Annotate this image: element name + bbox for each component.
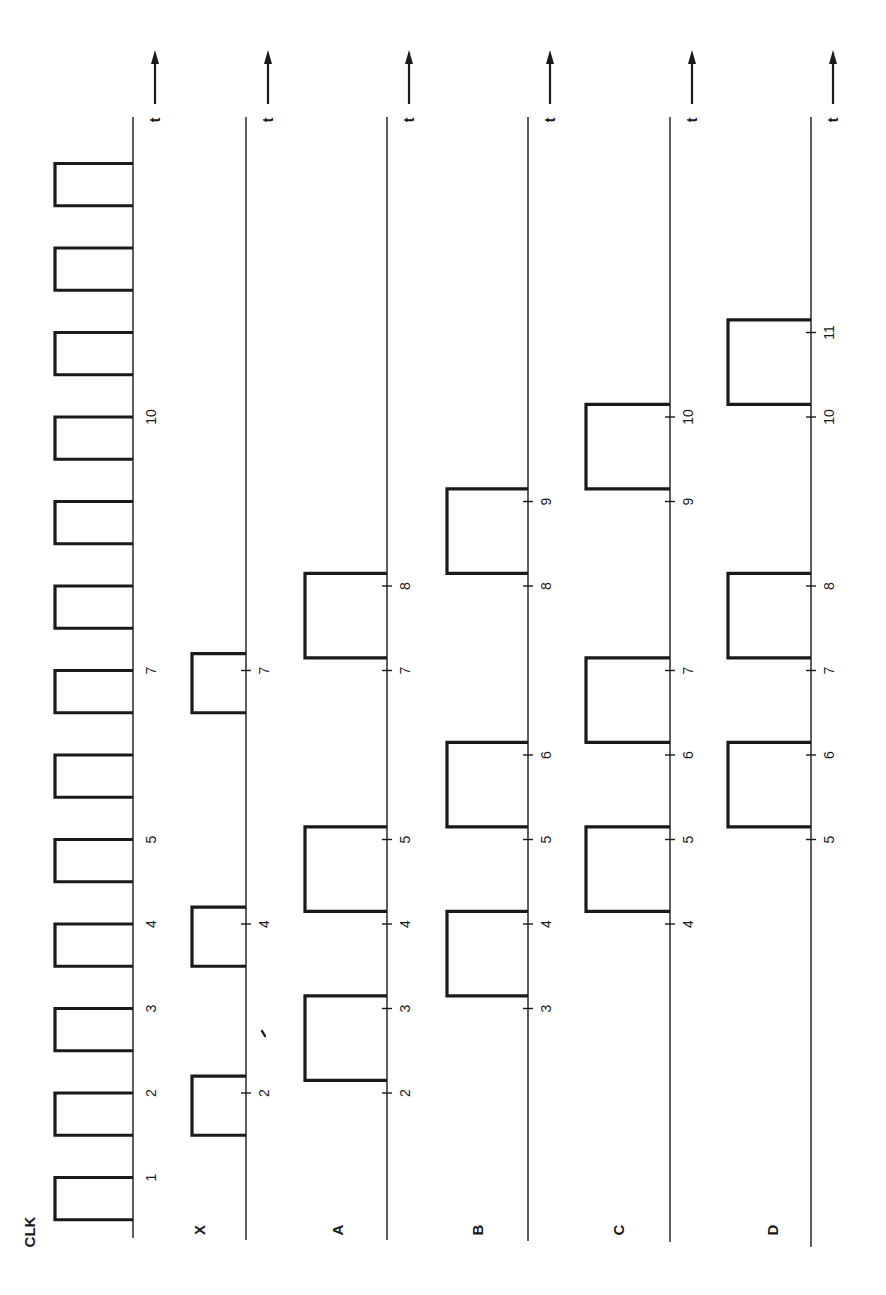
time-label: 7 xyxy=(397,666,413,674)
signal-pulse xyxy=(55,1093,133,1135)
signal-pulse xyxy=(55,164,133,206)
signal-pulse xyxy=(55,333,133,375)
signal-pulse xyxy=(447,489,528,574)
time-label: 3 xyxy=(143,1004,159,1012)
signal-pulse xyxy=(586,404,670,489)
arrow-up-icon xyxy=(264,50,272,64)
signal-pulse xyxy=(55,417,133,459)
time-axis-label: t xyxy=(401,117,417,122)
signal-pulse xyxy=(55,248,133,290)
signal-name-c: C xyxy=(610,1224,627,1235)
time-axis-label: t xyxy=(825,117,841,122)
signal-name-x: X xyxy=(191,1225,208,1235)
time-label: 2 xyxy=(143,1089,159,1097)
signal-pulse xyxy=(55,924,133,966)
signal-lane-a: 234578At xyxy=(305,50,417,1240)
signal-lanes: 12345710CLKt247Xt234578At345689Bt4567910… xyxy=(21,50,841,1247)
time-axis-label: t xyxy=(542,117,558,122)
arrow-up-icon xyxy=(829,50,837,64)
time-axis-label: t xyxy=(684,117,700,122)
time-label: 10 xyxy=(143,409,159,425)
signal-pulse xyxy=(447,911,528,996)
arrow-up-icon xyxy=(688,50,696,64)
signal-pulse xyxy=(192,1076,246,1135)
time-label: 10 xyxy=(680,409,696,425)
time-label: 4 xyxy=(397,920,413,928)
time-label: 5 xyxy=(397,835,413,843)
time-label: 2 xyxy=(397,1089,413,1097)
signal-pulse xyxy=(192,654,246,713)
signal-pulse xyxy=(305,827,387,912)
signal-pulse xyxy=(305,996,387,1080)
signal-name-a: A xyxy=(329,1224,346,1235)
time-label: 7 xyxy=(821,666,837,674)
time-label: 10 xyxy=(821,409,837,425)
signal-pulse xyxy=(586,658,670,743)
timing-diagram: 12345710CLKt247Xt234578At345689Bt4567910… xyxy=(0,0,886,1295)
signal-name-d: D xyxy=(764,1224,781,1235)
arrow-up-icon xyxy=(151,50,159,64)
time-label: 7 xyxy=(143,666,159,674)
time-label: 5 xyxy=(680,835,696,843)
time-label: 5 xyxy=(143,835,159,843)
signal-lane-d: 56781011Dt xyxy=(728,50,841,1247)
time-label: 11 xyxy=(821,325,837,340)
print-artifact-mark xyxy=(262,1031,265,1036)
signal-name-clk: CLK xyxy=(21,1216,38,1247)
signal-lane-b: 345689Bt xyxy=(447,50,558,1241)
time-label: 2 xyxy=(256,1089,272,1097)
time-label: 5 xyxy=(821,835,837,843)
arrow-up-icon xyxy=(546,50,554,64)
time-label: 3 xyxy=(538,1004,554,1012)
time-label: 4 xyxy=(143,920,159,928)
time-label: 8 xyxy=(538,582,554,590)
time-label: 9 xyxy=(680,497,696,505)
time-label: 6 xyxy=(680,751,696,759)
time-label: 5 xyxy=(538,835,554,843)
time-label: 4 xyxy=(680,920,696,928)
time-label: 1 xyxy=(143,1173,159,1181)
time-label: 4 xyxy=(538,920,554,928)
time-axis-label: t xyxy=(260,117,276,122)
time-label: 4 xyxy=(256,920,272,928)
signal-pulse xyxy=(55,1009,133,1051)
signal-pulse xyxy=(192,907,246,966)
signal-pulse xyxy=(55,671,133,713)
signal-pulse xyxy=(55,1178,133,1220)
signal-pulse xyxy=(55,586,133,628)
signal-pulse xyxy=(447,742,528,827)
signal-pulse xyxy=(728,320,811,405)
signal-lane-c: 4567910Ct xyxy=(586,50,700,1242)
time-label: 7 xyxy=(680,666,696,674)
time-label: 6 xyxy=(538,751,554,759)
signal-pulse xyxy=(728,573,811,658)
signal-name-b: B xyxy=(469,1224,486,1235)
time-label: 7 xyxy=(256,666,272,674)
signal-pulse xyxy=(305,573,387,658)
time-label: 8 xyxy=(821,582,837,590)
signal-pulse xyxy=(55,502,133,544)
time-label: 8 xyxy=(397,582,413,590)
signal-lane-x: 247Xt xyxy=(191,50,276,1240)
time-label: 6 xyxy=(821,751,837,759)
time-label: 3 xyxy=(397,1004,413,1012)
time-label: 9 xyxy=(538,497,554,505)
signal-pulse xyxy=(728,742,811,827)
signal-lane-clk: 12345710CLKt xyxy=(21,50,163,1247)
signal-pulse xyxy=(586,827,670,912)
signal-pulse xyxy=(55,755,133,797)
time-axis-label: t xyxy=(147,117,163,122)
signal-pulse xyxy=(55,840,133,882)
arrow-up-icon xyxy=(405,50,413,64)
